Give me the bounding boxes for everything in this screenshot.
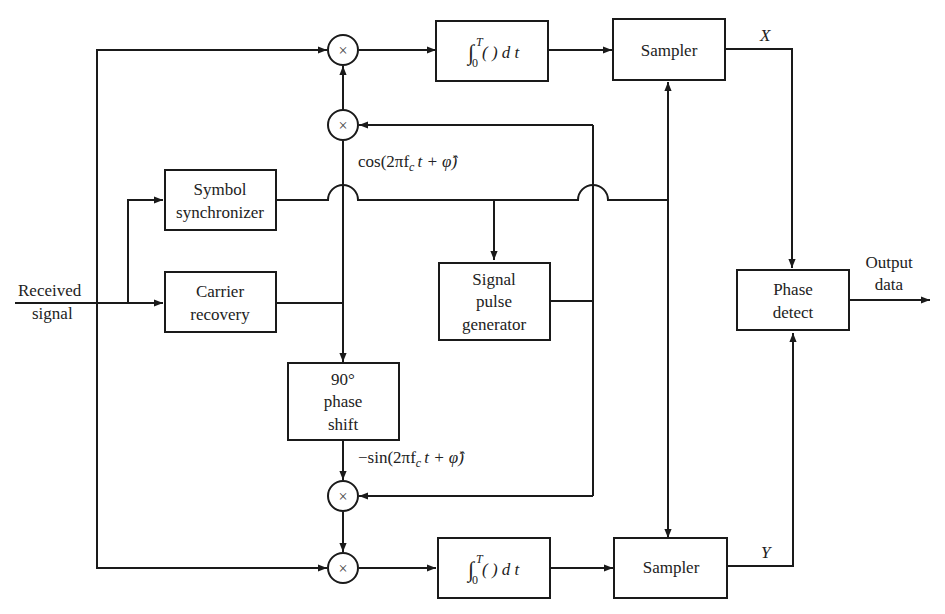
block-phase-detect: Phase detect: [737, 270, 849, 330]
block-label: generator: [462, 315, 527, 334]
integral-body: ( ) d t: [482, 43, 521, 62]
integral-body: ( ) d t: [482, 560, 521, 579]
block-carrier-recovery: Carrier recovery: [165, 272, 276, 332]
svg-text:−sin(2πfct + φ̂): −sin(2πfct + φ̂): [358, 448, 465, 470]
block-sampler-top: Sampler: [613, 19, 725, 80]
svg-text:cos(2πfct + φ̂): cos(2πfct + φ̂): [358, 152, 459, 174]
block-signal-pulse-generator: Signal pulse generator: [439, 263, 550, 340]
block-sampler-bottom: Sampler: [614, 538, 727, 598]
input-label: Received: [18, 281, 82, 300]
block-symbol-synchronizer: Symbol synchronizer: [165, 170, 276, 230]
block-label: Signal: [472, 270, 516, 289]
block-label: Phase: [773, 280, 813, 299]
wire-input-to-symbol-sync: [128, 200, 163, 303]
input-label: signal: [32, 304, 73, 323]
wire-y-to-phase-detect: [727, 333, 793, 566]
integral-lower-limit: 0: [472, 56, 478, 70]
mixer-cos: ×: [328, 110, 358, 140]
block-label: Symbol: [194, 180, 247, 199]
block-90-phase-shift: 90° phase shift: [288, 363, 399, 440]
sin-reference-label: −sin(2πfct + φ̂): [358, 448, 465, 470]
block-label: detect: [773, 303, 814, 322]
block-integrator-top: ∫ T 0 ( ) d t: [436, 21, 548, 81]
mixer-sin: ×: [328, 481, 358, 511]
output-label: data: [875, 275, 904, 294]
mixer-bottom: ×: [328, 553, 358, 583]
output-label: Output: [865, 253, 913, 272]
block-label: 90°: [331, 370, 355, 389]
block-integrator-bottom: ∫ T 0 ( ) d t: [438, 538, 550, 598]
multiply-icon: ×: [338, 42, 347, 59]
block-label: Sampler: [643, 558, 700, 577]
y-label: Y: [761, 543, 772, 562]
block-label: Sampler: [641, 41, 698, 60]
multiply-icon: ×: [338, 117, 347, 134]
integral-lower-limit: 0: [472, 573, 478, 587]
block-label: recovery: [190, 305, 250, 324]
block-label: shift: [328, 415, 359, 434]
wire-symbol-sync-bus: [277, 185, 668, 200]
multiply-icon: ×: [338, 560, 347, 577]
block-label: pulse: [476, 292, 512, 311]
block-label: synchronizer: [176, 203, 264, 222]
wire-x-to-phase-detect: [725, 49, 792, 268]
demodulator-block-diagram: × × × × Symbol synchronizer Carrier reco…: [0, 0, 945, 614]
x-label: X: [759, 26, 771, 45]
block-label: Carrier: [196, 282, 244, 301]
multiply-icon: ×: [338, 488, 347, 505]
mixer-top: ×: [328, 35, 358, 65]
block-label: phase: [324, 392, 363, 411]
cos-reference-label: cos(2πfct + φ̂): [358, 152, 459, 174]
